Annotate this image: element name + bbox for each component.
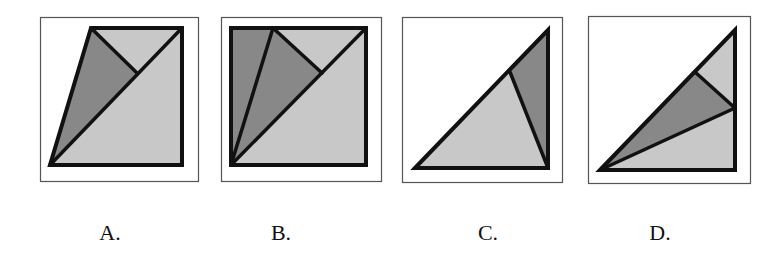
option-figure-d <box>589 17 751 184</box>
option-figure-a <box>41 18 199 182</box>
option-figure-b <box>222 18 382 182</box>
option-label-b: B. <box>271 220 291 246</box>
option-label-a: A. <box>99 220 120 246</box>
figure-options: A. B. C. D. <box>0 0 780 261</box>
option-label-d: D. <box>649 220 670 246</box>
option-label-c: C. <box>478 220 498 246</box>
option-figure-c <box>403 18 563 183</box>
